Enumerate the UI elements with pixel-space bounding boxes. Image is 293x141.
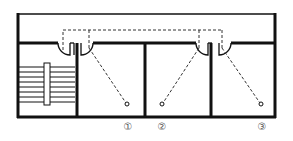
evacuation-path	[63, 30, 260, 103]
point-label-1: ①	[124, 122, 133, 132]
stairs-icon	[19, 63, 75, 105]
floor-plan-diagram	[0, 0, 293, 141]
point-label-3: ③	[258, 122, 267, 132]
point-marker-3	[259, 102, 263, 106]
point-marker-2	[160, 102, 164, 106]
point-marker-1	[125, 102, 129, 106]
point-label-2: ②	[158, 122, 167, 132]
